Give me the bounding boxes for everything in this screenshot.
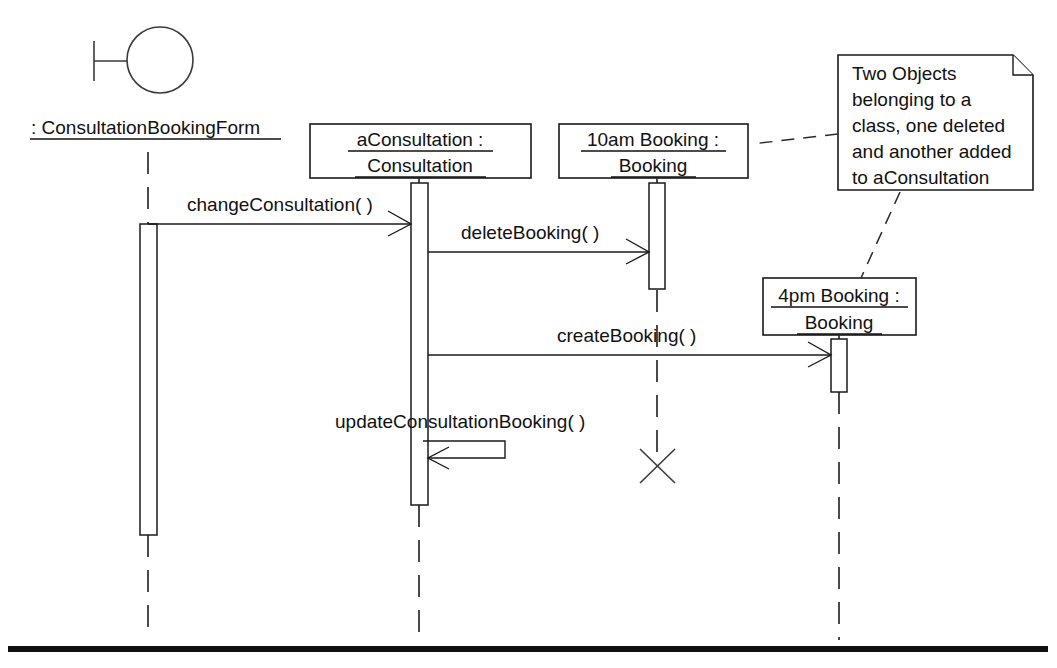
lifeline-head-booking4pm[interactable]: 4pm Booking : Booking (763, 278, 916, 335)
note-annotation: Two Objects belonging to a class, one de… (838, 55, 1033, 190)
message-deleteBooking[interactable]: deleteBooking( ) (428, 222, 649, 264)
boundary-object-icon (94, 27, 193, 93)
activation-booking4pm (831, 339, 847, 392)
message-changeConsultation[interactable]: changeConsultation( ) (148, 194, 411, 236)
message-updateConsultationBooking[interactable]: updateConsultationBooking( ) (335, 411, 585, 469)
lifeline-label-booking4pm-line1: 4pm Booking : (778, 285, 899, 306)
note-connector-booking4pm (861, 192, 900, 278)
message-label-deleteBooking: deleteBooking( ) (461, 222, 599, 243)
lifeline-label-consultation-line2: Consultation (367, 155, 473, 176)
activation-booking10am (649, 183, 665, 289)
message-label-changeConsultation: changeConsultation( ) (187, 194, 373, 215)
note-line-3: class, one deleted (852, 115, 1005, 136)
uml-sequence-diagram: : ConsultationBookingForm aConsultation … (0, 0, 1057, 668)
note-connector-booking10am (752, 134, 838, 144)
lifeline-label-consultation-line1: aConsultation : (357, 129, 484, 150)
lifeline-head-consultation[interactable]: aConsultation : Consultation (310, 124, 531, 178)
lifeline-label-booking4pm-line2: Booking (805, 312, 874, 333)
activation-consultation (411, 183, 428, 505)
lifeline-head-booking10am[interactable]: 10am Booking : Booking (559, 124, 748, 178)
message-label-createBooking: createBooking( ) (557, 325, 696, 346)
note-line-1: Two Objects (852, 63, 957, 84)
bottom-divider-rule (8, 646, 1048, 652)
lifeline-label-booking10am-line1: 10am Booking : (587, 129, 719, 150)
activation-actor (140, 224, 157, 535)
actor-label: : ConsultationBookingForm (31, 117, 260, 138)
note-line-2: belonging to a (852, 89, 972, 110)
destruction-marker-booking10am (640, 449, 675, 483)
sequence-diagram-canvas: : ConsultationBookingForm aConsultation … (0, 0, 1057, 668)
note-line-4: and another added (852, 141, 1012, 162)
lifeline-label-booking10am-line2: Booking (619, 155, 688, 176)
actor-label-group: : ConsultationBookingForm (30, 117, 281, 139)
message-label-updateConsultationBooking: updateConsultationBooking( ) (335, 411, 585, 432)
note-line-5: to aConsultation (852, 167, 989, 188)
